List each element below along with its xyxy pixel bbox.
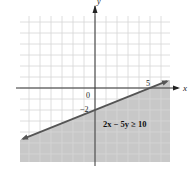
y-axis-label: y bbox=[96, 0, 101, 6]
x-axis-label: x bbox=[182, 83, 187, 93]
inequality-graph: x y 0 5 −2 2x − 5y ≥ 10 bbox=[0, 0, 192, 178]
x-axis-arrow-icon bbox=[173, 86, 180, 91]
y-tick-neg2-label: −2 bbox=[80, 105, 89, 114]
inequality-label: 2x − 5y ≥ 10 bbox=[103, 119, 147, 129]
origin-label: 0 bbox=[86, 91, 90, 100]
x-tick-5-label: 5 bbox=[146, 79, 150, 88]
y-axis-arrow-icon bbox=[93, 5, 98, 13]
